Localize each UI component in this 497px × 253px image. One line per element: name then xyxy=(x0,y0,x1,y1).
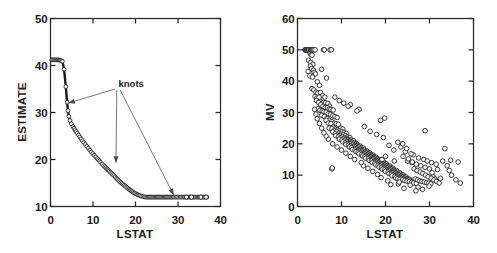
scatter-marker xyxy=(330,166,335,171)
scatter-marker xyxy=(322,131,327,136)
y-tick-label: 40 xyxy=(282,75,294,87)
y-tick-label: 50 xyxy=(35,13,47,25)
scatter-marker xyxy=(454,178,459,183)
right-yaxis-title: MV xyxy=(264,103,276,121)
scatter-marker xyxy=(400,142,405,147)
left-plot-svg: 0102030401020304050 knots LSTAT ESTIMATE xyxy=(0,0,250,253)
x-tick-label: 40 xyxy=(214,214,226,226)
scatter-marker xyxy=(396,140,401,145)
scatter-marker xyxy=(317,83,322,88)
scatter-marker xyxy=(392,148,397,153)
spline-marker xyxy=(66,109,70,113)
scatter-marker xyxy=(317,121,322,126)
scatter-marker xyxy=(406,157,411,162)
scatter-marker xyxy=(370,169,375,174)
left-axis-ticks xyxy=(51,19,221,207)
x-tick-label: 30 xyxy=(172,214,184,226)
spline-marker xyxy=(61,59,65,63)
knot-arrow xyxy=(120,90,174,195)
scatter-marker xyxy=(359,160,364,165)
spline-marker xyxy=(65,100,69,104)
x-tick-label: 0 xyxy=(294,214,300,226)
scatter-point-markers xyxy=(303,48,463,194)
scatter-marker xyxy=(346,104,351,109)
y-tick-label: 20 xyxy=(282,138,294,150)
scatter-marker xyxy=(337,98,342,103)
scatter-marker xyxy=(333,95,338,100)
scatter-marker xyxy=(414,189,419,194)
right-plot-svg: 0102030400102030405060 LSTAT MV xyxy=(250,0,497,253)
scatter-marker xyxy=(430,170,435,175)
scatter-marker xyxy=(456,160,461,165)
scatter-marker xyxy=(352,157,357,162)
scatter-marker xyxy=(448,158,453,163)
scatter-marker xyxy=(449,173,454,178)
spline-marker xyxy=(62,67,66,71)
scatter-marker xyxy=(319,67,324,72)
scatter-marker xyxy=(335,145,340,150)
y-tick-label: 60 xyxy=(282,13,294,25)
scatter-marker xyxy=(408,183,413,188)
scatter-marker xyxy=(425,159,430,164)
spline-marker xyxy=(204,195,208,199)
scatter-marker xyxy=(416,156,421,161)
x-tick-label: 20 xyxy=(129,214,141,226)
scatter-marker xyxy=(423,165,428,170)
scatter-marker xyxy=(401,154,406,159)
scatter-marker xyxy=(366,166,371,171)
x-tick-label: 30 xyxy=(423,214,435,226)
x-tick-label: 40 xyxy=(467,214,479,226)
scatter-marker xyxy=(423,128,428,133)
y-tick-label: 50 xyxy=(282,44,294,56)
knots-annotation-label: knots xyxy=(119,78,144,89)
scatter-marker xyxy=(314,112,319,117)
scatter-marker xyxy=(319,126,324,131)
spline-marker xyxy=(67,114,71,118)
scatter-marker xyxy=(438,176,443,181)
x-tick-label: 0 xyxy=(47,214,53,226)
scatter-marker xyxy=(324,76,329,81)
scatter-marker xyxy=(348,154,353,159)
y-tick-label: 20 xyxy=(35,154,47,166)
scatter-marker xyxy=(330,142,335,147)
scatter-marker xyxy=(381,135,386,140)
scatter-marker xyxy=(335,115,340,120)
left-yaxis-title: ESTIMATE xyxy=(16,82,28,142)
scatter-marker xyxy=(362,124,367,129)
scatter-marker xyxy=(375,172,380,177)
mv-lstat-scatter-plot: 0102030400102030405060 LSTAT MV xyxy=(250,0,497,253)
figure-container: 0102030401020304050 knots LSTAT ESTIMATE… xyxy=(0,0,497,253)
scatter-marker xyxy=(418,163,423,168)
scatter-marker xyxy=(429,160,434,165)
scatter-marker xyxy=(331,108,336,113)
scatter-marker xyxy=(427,184,432,189)
y-tick-label: 10 xyxy=(35,201,47,213)
spline-marker xyxy=(184,195,188,199)
spline-estimate-plot: 0102030401020304050 knots LSTAT ESTIMATE xyxy=(0,0,250,253)
spline-marker xyxy=(190,195,194,199)
scatter-marker xyxy=(383,154,388,159)
left-plot-frame xyxy=(51,19,221,207)
scatter-marker xyxy=(382,116,387,121)
scatter-marker xyxy=(397,180,402,185)
y-tick-label: 40 xyxy=(35,60,47,72)
spline-marker xyxy=(199,195,203,199)
scatter-marker xyxy=(434,162,439,167)
scatter-marker xyxy=(435,167,440,172)
scatter-marker xyxy=(341,101,346,106)
knot-arrow xyxy=(68,89,115,104)
scatter-marker xyxy=(339,148,344,153)
x-tick-label: 10 xyxy=(335,214,347,226)
scatter-marker xyxy=(374,132,379,137)
y-tick-label: 30 xyxy=(282,107,294,119)
right-xaxis-title: LSTAT xyxy=(367,228,404,240)
scatter-marker xyxy=(447,168,452,173)
y-tick-label: 0 xyxy=(288,201,294,213)
knot-arrow xyxy=(113,90,118,163)
y-tick-label: 30 xyxy=(35,107,47,119)
x-tick-label: 20 xyxy=(379,214,391,226)
scatter-marker xyxy=(322,95,327,100)
scatter-marker xyxy=(368,129,373,134)
scatter-marker xyxy=(387,143,392,148)
scatter-marker xyxy=(315,116,320,121)
